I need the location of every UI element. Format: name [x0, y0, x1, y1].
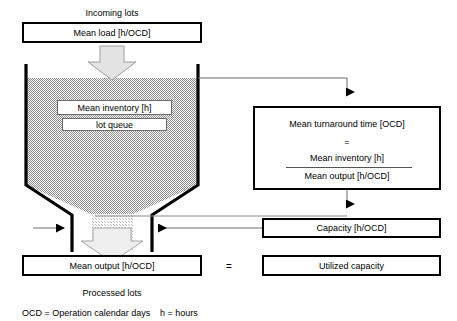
utilized-capacity-box[interactable]: Utilized capacity	[262, 255, 441, 276]
formula-denominator: Mean output [h/OCD]	[255, 171, 439, 181]
diagram-canvas: Incoming lots Mean load [h/OCD] Mean inv…	[0, 0, 457, 321]
capacity-box[interactable]: Capacity [h/OCD]	[262, 218, 441, 238]
inflow-block-arrow	[88, 46, 136, 80]
formula-heading: Mean turnaround time [OCD]	[255, 119, 439, 129]
funnel-walls	[26, 64, 198, 252]
mean-load-label: Mean load [h/OCD]	[73, 28, 150, 38]
capacity-label: Capacity [h/OCD]	[316, 223, 386, 233]
processed-lots-caption: Processed lots	[0, 288, 224, 298]
mean-output-label: Mean output [h/OCD]	[69, 261, 154, 271]
mean-output-box[interactable]: Mean output [h/OCD]	[22, 255, 202, 276]
turnaround-time-formula-box[interactable]: Mean turnaround time [OCD] = Mean invent…	[253, 106, 441, 190]
mean-inventory-label: Mean inventory [h]	[77, 103, 151, 113]
lot-queue-box[interactable]: lot queue	[62, 118, 167, 131]
equals-sign: =	[226, 261, 232, 272]
formula-numerator: Mean inventory [h]	[255, 153, 439, 163]
fraction-rule	[286, 167, 412, 168]
incoming-lots-caption: Incoming lots	[0, 8, 224, 18]
utilized-capacity-label: Utilized capacity	[319, 261, 384, 271]
connector-inventory-to-formula	[198, 78, 347, 92]
legend-hours: h = hours	[160, 308, 198, 318]
mean-load-box[interactable]: Mean load [h/OCD]	[22, 22, 202, 43]
formula-equals: =	[255, 137, 439, 147]
mean-inventory-box[interactable]: Mean inventory [h]	[57, 100, 172, 115]
lot-queue-label: lot queue	[96, 120, 133, 130]
legend-ocd: OCD = Operation calendar days	[22, 308, 150, 318]
